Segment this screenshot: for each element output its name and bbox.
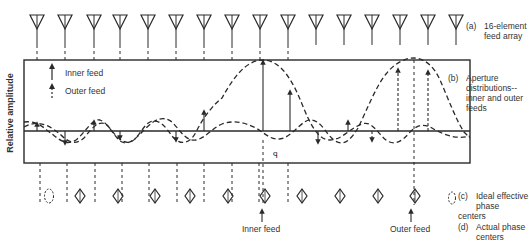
feed-drop-lines	[37, 45, 288, 60]
label-a: (a)16-element feed array	[466, 21, 527, 41]
ideal-phase-center-icon	[45, 189, 54, 203]
y-axis-label: Relative amplitude	[5, 73, 15, 153]
label-c: (c)Ideal effective phase centers	[458, 191, 529, 221]
label-d: (d)Actual phase centers	[458, 222, 525, 242]
antenna-feed-diagram: ꟼ	[0, 0, 529, 245]
actual-phase-centers	[75, 189, 420, 203]
legend-ideal-phase-icon	[449, 192, 456, 204]
phase-drop-lines	[40, 60, 414, 205]
label-b: (b)Aperture distributions-- inner and ou…	[448, 73, 523, 113]
legend-outer-feed: Outer feed	[65, 86, 105, 96]
feed-array	[30, 15, 463, 45]
inner-feed-pointer-label: Inner feed	[242, 224, 280, 234]
legend-inner-feed: Inner feed	[65, 68, 103, 78]
outer-feed-pointer-label: Outer feed	[390, 224, 430, 234]
svg-text:ꟼ: ꟼ	[273, 151, 278, 160]
